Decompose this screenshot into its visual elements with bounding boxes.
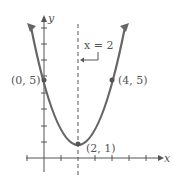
symmetry-label: x = 2 — [84, 39, 113, 52]
point-label-4-5: (4, 5) — [118, 74, 148, 87]
y-axis-arrow-icon — [41, 15, 47, 22]
symmetry-arrow-icon — [80, 58, 84, 63]
y-axis-label: y — [47, 12, 55, 25]
point-4-5 — [110, 78, 115, 83]
point-vertex — [76, 142, 81, 147]
point-label-2-1: (2, 1) — [86, 142, 116, 155]
point-0-5 — [42, 78, 47, 83]
point-label-0-5: (0, 5) — [11, 74, 41, 87]
parabola-graph: y x x = 2 (0, 5) (2, 1) (4, 5) — [0, 0, 173, 182]
x-axis-label: x — [164, 152, 171, 165]
symmetry-pointer — [84, 52, 98, 60]
